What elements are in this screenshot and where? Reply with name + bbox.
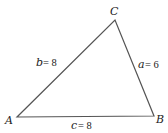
side-value-b: = 8 bbox=[43, 57, 57, 68]
vertex-label-a: A bbox=[4, 114, 13, 127]
triangle-diagram: C A B b = 8 a = 6 c = 8 bbox=[0, 0, 168, 133]
side-var-c: c bbox=[71, 119, 77, 132]
side-var-a: a bbox=[138, 58, 145, 71]
side-label-b: b = 8 bbox=[36, 56, 57, 69]
vertex-label-c: C bbox=[110, 5, 119, 18]
vertex-label-b: B bbox=[155, 113, 164, 126]
side-label-a: a = 6 bbox=[138, 58, 159, 71]
side-label-c: c = 8 bbox=[71, 119, 92, 132]
side-value-c: = 8 bbox=[78, 120, 92, 131]
side-var-b: b bbox=[36, 56, 43, 69]
side-value-a: = 6 bbox=[145, 59, 159, 70]
